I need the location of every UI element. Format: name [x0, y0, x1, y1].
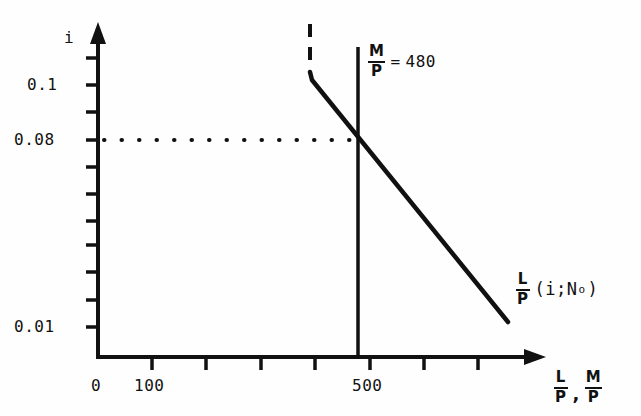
y-tick-label-0.01: 0.01 — [14, 319, 55, 335]
x-axis-separator: , — [573, 385, 580, 405]
money-demand-denominator: P — [516, 291, 530, 308]
x-axis-second-denominator: P — [585, 389, 602, 406]
equals-sign: = — [390, 54, 400, 70]
money-demand-numerator: L — [516, 272, 530, 291]
money-supply-numerator: M — [368, 44, 385, 63]
x-axis-first-fraction: L P — [554, 370, 568, 405]
y-tick-label-0.08: 0.08 — [14, 132, 55, 148]
money-supply-annotation: M P = 480 — [368, 44, 436, 79]
money-supply-denominator: P — [368, 63, 385, 80]
y-tick-label-0.1: 0.1 — [27, 77, 57, 93]
chart-canvas — [0, 0, 641, 416]
x-tick-label-0: 0 — [91, 378, 101, 394]
x-axis-label: L P , M P — [554, 370, 602, 405]
money-demand-annotation: L P (i;N o ) — [516, 272, 598, 307]
money-demand-argument: (i;N — [535, 281, 578, 298]
x-tick-label-500: 500 — [352, 378, 382, 394]
money-demand-argument-close: ) — [588, 281, 599, 298]
x-axis-second-fraction: M P — [585, 370, 602, 405]
x-axis-second-numerator: M — [585, 370, 602, 389]
money-demand-fraction: L P — [516, 272, 530, 307]
money-supply-value: 480 — [406, 54, 436, 70]
x-axis — [96, 349, 546, 370]
money-demand-subscript: o — [578, 284, 585, 295]
x-tick-label-100: 100 — [134, 378, 164, 394]
money-market-diagram: i 0.1 0.08 0.01 0 100 500 M P = 480 L P … — [0, 0, 641, 416]
money-supply-fraction: M P — [368, 44, 385, 79]
x-axis-first-numerator: L — [554, 370, 568, 389]
x-axis-first-denominator: P — [554, 389, 568, 406]
y-axis — [86, 22, 106, 358]
y-axis-label: i — [64, 30, 74, 46]
